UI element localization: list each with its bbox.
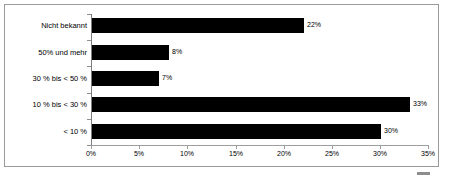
bar-value-nicht-bekannt: 22% (307, 21, 321, 28)
x-axis-tick (139, 146, 140, 149)
bar-unter-10 (92, 124, 381, 139)
category-label-10-bis-30: 10 % bis < 30 % (33, 100, 87, 109)
x-axis-tick-label: 35% (421, 150, 435, 157)
bar-value-30-bis-50: 7% (162, 74, 172, 81)
bar-nicht-bekannt (92, 18, 304, 33)
x-axis-tick-label: 15% (229, 150, 243, 157)
x-axis-tick-label: 20% (277, 150, 291, 157)
x-axis-tick (332, 146, 333, 149)
x-axis-tick (91, 146, 92, 149)
bar-30-bis-50 (92, 71, 159, 86)
x-axis-tick (380, 146, 381, 149)
x-axis-tick (284, 146, 285, 149)
bar-chart: 0% 5% 10% 15% 20% 25% 30% 35% Nicht beka… (0, 0, 450, 182)
x-axis-line (91, 145, 429, 146)
bar-value-unter-10: 30% (384, 127, 398, 134)
category-label-30-bis-50: 30 % bis < 50 % (33, 74, 87, 83)
y-axis-tick (87, 119, 91, 120)
x-axis-tick-label: 30% (373, 150, 387, 157)
category-label-unter-10: < 10 % (63, 127, 87, 136)
x-axis-tick-label: 5% (134, 150, 144, 157)
bar-value-10-bis-30: 33% (413, 100, 427, 107)
category-label-nicht-bekannt: Nicht bekannt (41, 21, 87, 30)
bar-50-und-mehr (92, 45, 169, 60)
x-axis-tick (428, 146, 429, 149)
bar-value-50-und-mehr: 8% (172, 48, 182, 55)
x-axis-tick (236, 146, 237, 149)
x-axis-tick-label: 0% (86, 150, 96, 157)
y-axis-tick (87, 93, 91, 94)
y-axis-tick (87, 66, 91, 67)
y-axis-tick (87, 14, 91, 15)
x-axis-tick (187, 146, 188, 149)
category-label-50-und-mehr: 50% und mehr (38, 48, 87, 57)
y-axis-tick (87, 40, 91, 41)
x-axis-tick-label: 10% (180, 150, 194, 157)
bar-10-bis-30 (92, 97, 410, 112)
x-axis-tick-label: 25% (325, 150, 339, 157)
